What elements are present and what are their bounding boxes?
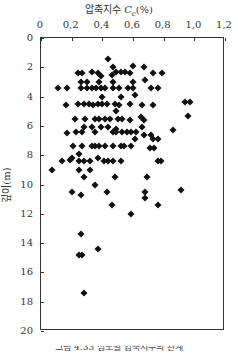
data-point-diamond [97, 124, 104, 131]
data-point-diamond [131, 136, 138, 143]
y-tick-label: 16 [0, 266, 33, 277]
data-point-diamond [149, 102, 156, 109]
data-point-diamond [117, 93, 124, 100]
data-point-diamond [154, 84, 161, 91]
y-tick-mark [41, 214, 44, 215]
data-point-diamond [119, 115, 126, 122]
x-tick-label: 0,2 [63, 19, 79, 30]
x-tick-mark [72, 38, 73, 41]
y-tick-mark [41, 185, 44, 186]
data-point-diamond [94, 245, 101, 252]
data-point-diamond [82, 115, 89, 122]
data-point-diamond [103, 188, 110, 195]
data-point-diamond [110, 158, 117, 165]
y-tick-label: 4 [0, 90, 33, 101]
data-point-diamond [140, 64, 147, 71]
data-point-diamond [54, 84, 61, 91]
x-tick-label: 1,0 [185, 19, 201, 30]
y-tick-mark [41, 67, 44, 68]
data-point-diamond [131, 92, 138, 99]
x-tick-label: 0,6 [124, 19, 140, 30]
data-point-diamond [186, 99, 193, 106]
x-tick-label: 0,4 [93, 19, 109, 30]
data-point-diamond [68, 188, 75, 195]
data-point-diamond [142, 77, 149, 84]
x-tick-mark [102, 38, 103, 41]
x-tick-mark [225, 38, 226, 41]
data-point-diamond [129, 62, 136, 69]
y-tick-label: 0 [0, 32, 33, 43]
y-tick-mark [41, 272, 44, 273]
data-point-diamond [79, 70, 86, 77]
data-point-diamond [79, 143, 86, 150]
data-point-diamond [79, 251, 86, 258]
data-point-diamond [151, 144, 158, 151]
data-point-diamond [64, 130, 71, 137]
data-point-diamond [71, 115, 78, 122]
data-point-diamond [77, 231, 84, 238]
data-point-diamond [102, 143, 109, 150]
data-point-diamond [133, 128, 140, 135]
data-point-diamond [126, 116, 133, 123]
y-tick-label: 20 [0, 325, 33, 336]
data-point-diamond [59, 158, 66, 165]
y-tick-mark [41, 331, 44, 332]
data-point-diamond [149, 70, 156, 77]
data-point-diamond [139, 102, 146, 109]
x-tick-label: 0 [37, 19, 43, 30]
data-point-diamond [91, 181, 98, 188]
data-point-diamond [117, 158, 124, 165]
data-point-diamond [185, 112, 192, 119]
data-point-diamond [64, 84, 71, 91]
data-point-diamond [103, 100, 110, 107]
y-tick-mark [41, 243, 44, 244]
data-point-diamond [126, 100, 133, 107]
data-point-diamond [87, 166, 94, 173]
x-axis-title: 압축지수 Cc(%) [0, 1, 238, 18]
y-tick-label: 8 [0, 149, 33, 160]
data-point-diamond [62, 102, 69, 109]
data-point-diamond [143, 174, 150, 181]
data-point-diamond [76, 166, 83, 173]
data-point-diamond [80, 174, 87, 181]
data-point-diamond [80, 289, 87, 296]
y-tick-mark [41, 155, 44, 156]
data-point-diamond [129, 84, 136, 91]
data-point-diamond [70, 143, 77, 150]
figure-caption: 그림 4.33 심도별 압축지수의 관계 [0, 340, 238, 353]
y-tick-mark [41, 97, 44, 98]
data-point-diamond [77, 191, 84, 198]
y-tick-label: 2 [0, 61, 33, 72]
data-point-diamond [110, 143, 117, 150]
data-point-diamond [159, 70, 166, 77]
data-point-diamond [108, 201, 115, 208]
data-point-diamond [111, 174, 118, 181]
y-tick-label: 12 [0, 207, 33, 218]
data-point-diamond [169, 127, 176, 134]
data-point-diamond [154, 136, 161, 143]
data-point-diamond [116, 84, 123, 91]
x-tick-mark [133, 38, 134, 41]
data-point-diamond [177, 187, 184, 194]
y-tick-label: 18 [0, 295, 33, 306]
data-point-diamond [142, 194, 149, 201]
data-point-diamond [87, 158, 94, 165]
y-tick-mark [41, 126, 44, 127]
x-tick-mark [164, 38, 165, 41]
data-point-diamond [128, 210, 135, 217]
y-tick-label: 6 [0, 119, 33, 130]
y-axis-title: 깊이(m) [0, 167, 13, 202]
y-tick-label: 14 [0, 237, 33, 248]
data-point-diamond [154, 201, 161, 208]
y-tick-mark [41, 38, 44, 39]
data-point-diamond [48, 166, 55, 173]
data-point-diamond [139, 124, 146, 131]
data-point-diamond [126, 70, 133, 77]
data-point-diamond [99, 93, 106, 100]
data-point-diamond [128, 143, 135, 150]
data-point-diamond [106, 115, 113, 122]
x-tick-mark [194, 38, 195, 41]
plot-area [40, 37, 224, 330]
data-point-diamond [105, 55, 112, 62]
x-tick-label: 1,2 [216, 19, 232, 30]
